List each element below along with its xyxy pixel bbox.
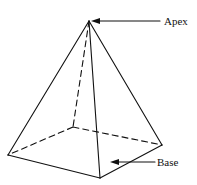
edge-apex-right bbox=[89, 21, 162, 145]
pyramid-diagram: Apex Base bbox=[0, 0, 197, 185]
hidden-base-edge-back-right bbox=[73, 127, 162, 145]
base-edge-front-left bbox=[8, 155, 100, 178]
edge-apex-front-left bbox=[8, 21, 89, 155]
hidden-edge-apex-back bbox=[73, 21, 89, 127]
edge-apex-front bbox=[89, 21, 100, 178]
apex-label: Apex bbox=[164, 15, 188, 27]
base-label: Base bbox=[157, 156, 179, 168]
base-arrowhead-icon bbox=[110, 159, 119, 165]
hidden-base-edge-back-left bbox=[8, 127, 73, 155]
apex-arrowhead-icon bbox=[91, 18, 100, 24]
